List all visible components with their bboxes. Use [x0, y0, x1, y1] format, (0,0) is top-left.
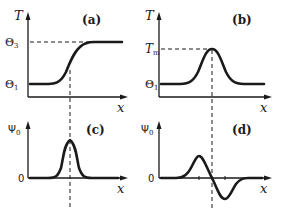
panel-c: Ψ 0 0 (c) x: [8, 121, 128, 196]
panel-b-y-label: T: [145, 8, 155, 23]
panel-d-x-arrow-icon: [264, 176, 272, 181]
panel-a-tick-theta1: Θ: [5, 78, 14, 91]
panel-b-x-arrow-icon: [264, 95, 272, 100]
panel-d-tick-zero: 0: [148, 173, 154, 184]
panel-b-title: (b): [232, 13, 252, 27]
panel-c-x-arrow-icon: [120, 176, 128, 181]
panel-a-tick-theta3: Θ: [5, 36, 14, 49]
panel-c-title: (c): [86, 123, 105, 137]
panel-a-y-arrow-icon: [26, 12, 31, 20]
svg-text:1: 1: [14, 84, 18, 92]
panel-a-y-label: T: [14, 8, 24, 23]
svg-text:m: m: [153, 49, 160, 57]
panel-d-title: (d): [232, 123, 252, 137]
panel-c-y-arrow-icon: [26, 121, 31, 129]
panel-a-x-arrow-icon: [120, 95, 128, 100]
panel-b-tick-theta1: Θ: [145, 78, 154, 91]
panel-c-x-label: x: [117, 181, 125, 196]
panel-a-curve: [30, 42, 122, 84]
panel-c-curve: [30, 140, 118, 178]
panel-d-y-arrow-icon: [157, 121, 162, 129]
figure-canvas: T Θ 3 Θ 1 (a) x T T m Θ 1 (b) x Ψ 0 0: [0, 0, 285, 209]
panel-c-tick-zero: 0: [18, 173, 24, 184]
panel-a-title: (a): [82, 13, 101, 27]
panel-d-y-label: Ψ: [141, 124, 149, 135]
panel-a-x-label: x: [117, 100, 125, 115]
svg-text:1: 1: [154, 84, 158, 92]
svg-text:0: 0: [16, 129, 20, 137]
panel-b-x-label: x: [260, 100, 268, 115]
svg-text:0: 0: [149, 129, 153, 137]
panel-d: Ψ 0 0 (d) x: [141, 121, 272, 199]
panel-d-x-label: x: [260, 181, 268, 196]
panel-c-y-label: Ψ: [8, 124, 16, 135]
panel-b-y-arrow-icon: [157, 12, 162, 20]
svg-text:3: 3: [14, 42, 18, 50]
